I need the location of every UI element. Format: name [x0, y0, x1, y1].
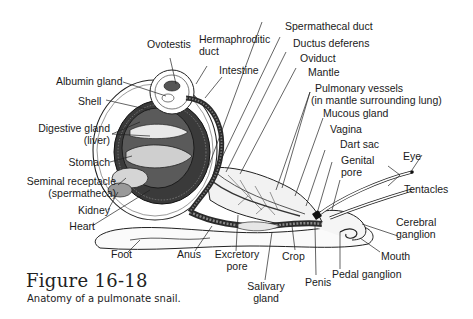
label-crop: Crop	[282, 250, 305, 262]
label-heart: Heart	[0, 220, 95, 232]
label-intestine: Intestine	[219, 64, 259, 76]
label-genital-pore-line2: pore	[341, 166, 362, 178]
label-anus: Anus	[177, 248, 201, 260]
label-digestive-gland-line2: (liver)	[0, 134, 110, 146]
label-digestive-gland-line1: Digestive gland	[0, 122, 110, 134]
label-mucous-gland: Mucous gland	[323, 107, 388, 119]
eye-dot	[410, 170, 414, 174]
figure-caption: Anatomy of a pulmonate snail.	[27, 293, 181, 304]
label-excretory-pore-line1: Excretory	[213, 248, 261, 260]
label-foot: Foot	[111, 248, 132, 260]
figure-title: Figure 16-18	[26, 270, 148, 291]
mantle-lung	[205, 167, 322, 226]
label-pulmonary-vessels-line1: Pulmonary vessels	[315, 82, 403, 94]
label-cerebral-ganglion-line1: Cerebral	[396, 216, 436, 228]
label-tentacles: Tentacles	[404, 183, 448, 195]
label-hermaphroditic-duct-line2: duct	[199, 45, 219, 57]
label-kidney: Kidney	[0, 204, 110, 216]
label-excretory-pore-line2: pore	[213, 260, 261, 272]
label-penis: Penis	[305, 276, 331, 288]
label-vagina: Vagina	[330, 123, 362, 135]
ovotestis-shape	[164, 81, 180, 91]
label-ovotestis: Ovotestis	[147, 38, 191, 50]
label-cerebral-ganglion-line2: ganglion	[396, 228, 436, 240]
label-pulmonary-vessels-line2: (in mantle surrounding lung)	[311, 94, 442, 106]
label-shell: Shell	[78, 95, 101, 107]
label-salivary-gland-line2: gland	[244, 292, 288, 304]
label-seminal-receptacle-line1: Seminal receptacle	[0, 175, 116, 187]
label-dart-sac: Dart sac	[340, 138, 379, 150]
shell-apex	[150, 70, 194, 114]
label-ductus-deferens: Ductus deferens	[293, 37, 369, 49]
label-mouth: Mouth	[381, 250, 410, 262]
label-pedal-ganglion: Pedal ganglion	[332, 268, 401, 280]
label-oviduct: Oviduct	[300, 52, 336, 64]
label-eye: Eye	[403, 150, 421, 162]
label-seminal-receptacle-line2: (spermatheca)	[0, 187, 116, 199]
label-genital-pore-line1: Genital	[341, 154, 374, 166]
label-spermathecal-duct: Spermathecal duct	[285, 20, 373, 32]
label-stomach: Stomach	[0, 156, 110, 168]
label-salivary-gland-line1: Salivary	[244, 280, 288, 292]
label-albumin-gland: Albumin gland	[56, 75, 123, 87]
label-hermaphroditic-duct-line1: Hermaphroditic	[199, 33, 270, 45]
label-mantle: Mantle	[308, 66, 340, 78]
